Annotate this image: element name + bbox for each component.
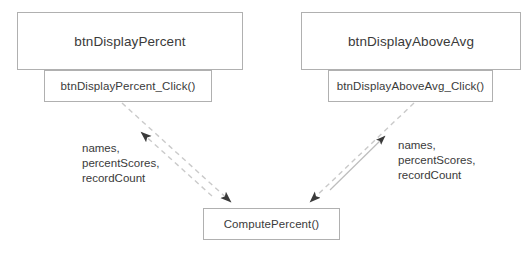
diagram-canvas: btnDisplayPercent btnDisplayPercent_Clic… — [0, 0, 532, 258]
edge-label-right: names, percentScores, recordCount — [398, 138, 475, 183]
node-compute-percent[interactable]: ComputePercent() — [203, 208, 340, 240]
node-btn-display-above-avg-click[interactable]: btnDisplayAboveAvg_Click() — [328, 70, 493, 102]
edge-right-return — [330, 136, 385, 190]
node-compute-percent-label: ComputePercent() — [224, 218, 320, 230]
node-btn-display-above-avg-click-label: btnDisplayAboveAvg_Click() — [337, 80, 484, 92]
node-btn-display-percent-click-label: btnDisplayPercent_Click() — [61, 80, 196, 92]
edge-label-left: names, percentScores, recordCount — [82, 141, 159, 186]
node-btn-display-percent-click[interactable]: btnDisplayPercent_Click() — [44, 70, 212, 102]
